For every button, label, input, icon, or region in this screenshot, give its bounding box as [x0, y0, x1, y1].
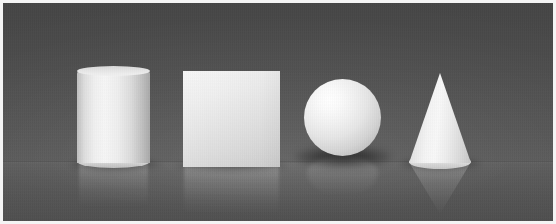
cube-object[interactable]: [183, 71, 280, 167]
sphere-object[interactable]: [304, 79, 381, 156]
render-viewport: [3, 3, 553, 221]
scene-floor: [3, 162, 553, 221]
cylinder-top-cap: [77, 66, 150, 76]
cylinder-object[interactable]: [77, 71, 150, 163]
rendered-scene: [0, 0, 556, 224]
